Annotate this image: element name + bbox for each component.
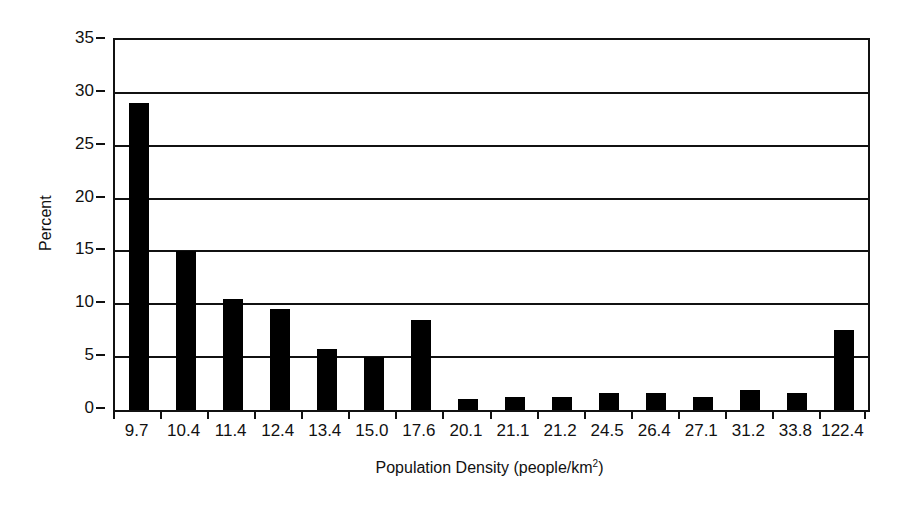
x-tick-mark (395, 410, 397, 419)
x-tick-mark (864, 410, 866, 419)
x-tick-mark (160, 410, 162, 419)
x-tick-label: 21.1 (496, 421, 529, 441)
bar (317, 349, 337, 410)
y-tick-label: 25 (75, 134, 94, 154)
x-tick-mark (301, 410, 303, 419)
y-tick-label: 5 (85, 345, 94, 365)
bar (599, 393, 619, 410)
x-tick-label: 26.4 (638, 421, 671, 441)
x-tick-mark (348, 410, 350, 419)
x-tick-mark (442, 410, 444, 419)
x-tick-label: 13.4 (308, 421, 341, 441)
x-tick-mark (772, 410, 774, 419)
bar (270, 309, 290, 410)
y-tick-label: 20 (75, 187, 94, 207)
y-tick-mark (96, 143, 105, 145)
y-tick-mark (96, 37, 105, 39)
y-tick-mark (96, 407, 105, 409)
x-axis-title-tail: ) (598, 459, 603, 476)
y-tick-label: 0 (85, 398, 94, 418)
y-tick-mark (96, 90, 105, 92)
y-tick-mark (96, 354, 105, 356)
bar (787, 393, 807, 410)
x-axis-title: Population Density (people/km2) (113, 458, 866, 477)
bar (505, 397, 525, 410)
y-tick-label: 15 (75, 239, 94, 259)
bar (552, 397, 572, 410)
x-tick-label: 27.1 (685, 421, 718, 441)
bars-series (115, 40, 868, 410)
x-tick-mark (537, 410, 539, 419)
x-tick-label: 21.2 (544, 421, 577, 441)
histogram-figure: Percent 05101520253035 9.710.411.412.413… (0, 0, 916, 507)
y-axis-title: Percent (34, 38, 58, 408)
y-tick-label: 10 (75, 292, 94, 312)
y-tick-label: 35 (75, 28, 94, 48)
x-tick-mark (254, 410, 256, 419)
y-tick-mark (96, 196, 105, 198)
plot-area (113, 38, 870, 412)
bar (458, 399, 478, 410)
bar (834, 330, 854, 410)
x-tick-mark (819, 410, 821, 419)
y-axis-title-text: Percent (37, 195, 55, 251)
bar (223, 299, 243, 410)
x-axis-title-base: Population Density (people/km (376, 459, 593, 476)
bar (740, 390, 760, 410)
y-tick-label: 30 (75, 81, 94, 101)
x-tick-label: 10.4 (167, 421, 200, 441)
x-tick-label: 11.4 (215, 421, 247, 441)
x-tick-mark (490, 410, 492, 419)
y-tick-mark (96, 301, 105, 303)
x-tick-label: 17.6 (402, 421, 435, 441)
x-tick-label: 20.1 (449, 421, 482, 441)
x-tick-mark (207, 410, 209, 419)
plot-inner (115, 40, 868, 410)
bar (693, 397, 713, 410)
bar (646, 393, 666, 410)
bar (176, 251, 196, 410)
x-tick-mark (113, 410, 115, 419)
x-tick-label: 33.8 (779, 421, 812, 441)
x-axis-tick-labels: 9.710.411.412.413.415.017.620.121.121.22… (113, 421, 866, 447)
x-tick-label: 122.4 (821, 421, 864, 441)
x-tick-label: 24.5 (591, 421, 624, 441)
x-tick-mark (725, 410, 727, 419)
bar (411, 320, 431, 410)
x-tick-label: 15.0 (355, 421, 388, 441)
x-axis-tick-marks (113, 410, 866, 420)
bar (129, 103, 149, 410)
y-tick-mark (96, 248, 105, 250)
bar (364, 357, 384, 410)
x-tick-mark (584, 410, 586, 419)
x-tick-mark (631, 410, 633, 419)
x-tick-mark (678, 410, 680, 419)
x-tick-label: 31.2 (732, 421, 765, 441)
x-tick-label: 12.4 (261, 421, 294, 441)
x-tick-label: 9.7 (125, 421, 149, 441)
y-axis-tick-labels: 05101520253035 (58, 38, 104, 408)
